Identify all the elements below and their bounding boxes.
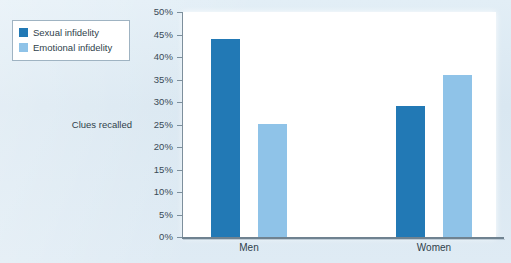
- y-tick-label: 50%: [135, 7, 173, 17]
- chart-legend: Sexual infidelityEmotional infidelity: [12, 20, 130, 61]
- bar-women-emotional: [443, 75, 472, 237]
- y-tick-label: 40%: [135, 52, 173, 62]
- y-tick-mark: [177, 12, 182, 13]
- legend-item: Sexual infidelity: [19, 26, 123, 39]
- y-tick-label: 5%: [135, 210, 173, 220]
- bar-women-sexual: [396, 106, 425, 237]
- y-tick-label: 45%: [135, 30, 173, 40]
- x-axis-line-shadow: [183, 239, 505, 240]
- y-tick-mark: [177, 57, 182, 58]
- bar-men-sexual: [211, 39, 240, 237]
- y-tick-mark: [177, 80, 182, 81]
- y-tick-label: 15%: [135, 165, 173, 175]
- legend-swatch-icon: [19, 43, 28, 52]
- legend-label: Emotional infidelity: [33, 43, 112, 53]
- y-tick-mark: [177, 147, 182, 148]
- y-tick-mark: [177, 125, 182, 126]
- y-axis-tick-labels: 50%45%40%35%30%25%20%15%10%5%0%: [133, 0, 173, 263]
- y-tick-mark: [177, 215, 182, 216]
- y-tick-mark: [177, 170, 182, 171]
- y-tick-mark: [177, 102, 182, 103]
- x-axis-label-men: Men: [209, 243, 289, 253]
- x-axis-label-women: Women: [394, 243, 474, 253]
- y-tick-label: 25%: [135, 120, 173, 130]
- y-tick-label: 10%: [135, 187, 173, 197]
- y-tick-mark: [177, 237, 182, 238]
- legend-swatch-icon: [19, 28, 28, 37]
- bar-men-emotional: [258, 124, 287, 237]
- y-tick-mark: [177, 35, 182, 36]
- legend-item: Emotional infidelity: [19, 41, 123, 54]
- legend-label: Sexual infidelity: [33, 28, 99, 38]
- bars-layer: [183, 12, 496, 237]
- y-tick-label: 0%: [135, 232, 173, 242]
- y-tick-label: 35%: [135, 75, 173, 85]
- y-axis-title: Clues recalled: [58, 120, 132, 130]
- y-tick-label: 20%: [135, 142, 173, 152]
- y-tick-label: 30%: [135, 97, 173, 107]
- y-tick-mark: [177, 192, 182, 193]
